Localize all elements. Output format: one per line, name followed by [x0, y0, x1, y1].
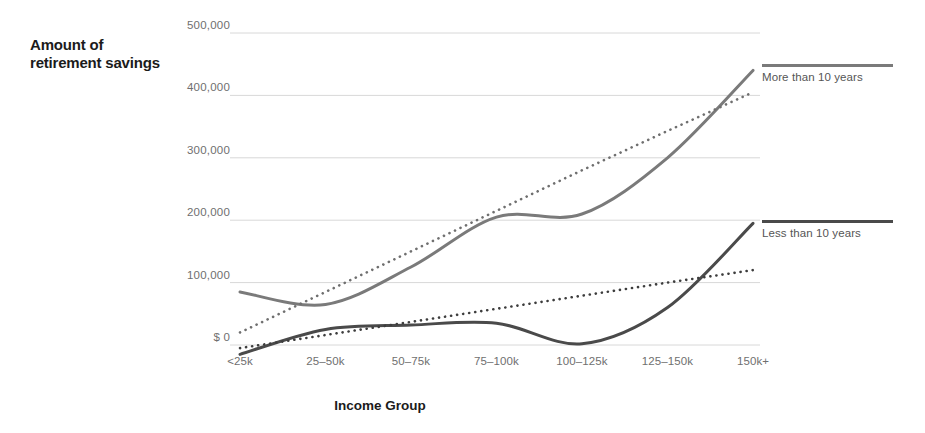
series-line-less-than-10-years [240, 223, 753, 354]
series-line-less-than-10-years-trend [240, 270, 753, 348]
x-axis-title: Income Group [0, 398, 760, 413]
y-tick-label-300000: 300,000 [150, 144, 230, 156]
x-tick-label-0: <25k [195, 355, 285, 367]
series-line-more-than-10-years [240, 70, 753, 305]
legend-label-more-than-10-years: More than 10 years [762, 71, 893, 83]
x-tick-label-5: 125–150k [623, 355, 713, 367]
x-tick-label-3: 75–100k [452, 355, 542, 367]
y-tick-label-200000: 200,000 [150, 206, 230, 218]
x-tick-label-2: 50–75k [366, 355, 456, 367]
legend-label-less-than-10-years: Less than 10 years [762, 227, 893, 239]
series-group [240, 70, 753, 354]
legend-item-less-than-10-years: Less than 10 years [762, 220, 893, 239]
y-tick-label-500000: 500,000 [150, 19, 230, 31]
x-tick-label-4: 100–125k [537, 355, 627, 367]
y-tick-label-400000: 400,000 [150, 81, 230, 93]
retirement-savings-chart: Amount of retirement savings $ 0100,0002… [0, 0, 925, 433]
x-tick-label-6: 150k+ [708, 355, 798, 367]
y-tick-label-100000: 100,000 [150, 269, 230, 281]
legend-swatch-more-than-10-years [762, 64, 893, 67]
series-line-more-than-10-years-trend [240, 92, 753, 332]
y-tick-label-0: $ 0 [150, 331, 230, 343]
legend-swatch-less-than-10-years [762, 220, 893, 223]
x-tick-label-1: 25–50k [281, 355, 371, 367]
legend-item-more-than-10-years: More than 10 years [762, 64, 893, 83]
